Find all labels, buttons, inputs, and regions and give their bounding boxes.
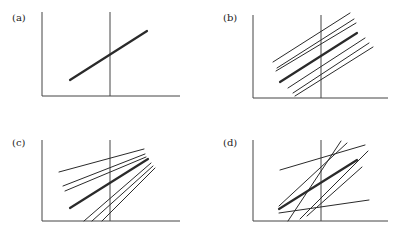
panel-b bbox=[253, 13, 388, 98]
panel-a bbox=[42, 12, 180, 96]
panel-label-c: (c) bbox=[12, 137, 25, 148]
mean-regression-line bbox=[280, 33, 357, 82]
panel-label-d: (d) bbox=[223, 137, 237, 148]
panel-d bbox=[253, 140, 388, 221]
regression-line bbox=[295, 47, 373, 96]
panel-c bbox=[42, 140, 180, 221]
regression-line bbox=[276, 23, 356, 71]
panel-label-b: (b) bbox=[223, 12, 237, 23]
mean-regression-line bbox=[70, 31, 147, 80]
panels-group bbox=[42, 12, 388, 221]
panel-label-a: (a) bbox=[12, 12, 26, 23]
regression-line bbox=[279, 143, 347, 206]
regression-line bbox=[279, 200, 369, 213]
figure-canvas bbox=[0, 0, 406, 228]
regression-line bbox=[63, 154, 145, 186]
